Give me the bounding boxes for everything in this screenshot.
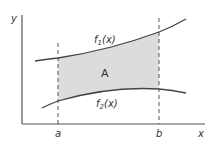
y-axis-label: y: [10, 13, 18, 24]
bound-b-label: b: [156, 128, 162, 139]
x-axis-label: x: [197, 128, 204, 139]
bound-a-label: a: [55, 128, 61, 139]
region-a-label: A: [101, 67, 109, 80]
curve-f2-label: f2(x): [96, 98, 118, 111]
curve-f1-label: f1(x): [94, 34, 116, 47]
area-between-curves-diagram: y x a b f1(x) f2(x) A: [0, 0, 220, 147]
